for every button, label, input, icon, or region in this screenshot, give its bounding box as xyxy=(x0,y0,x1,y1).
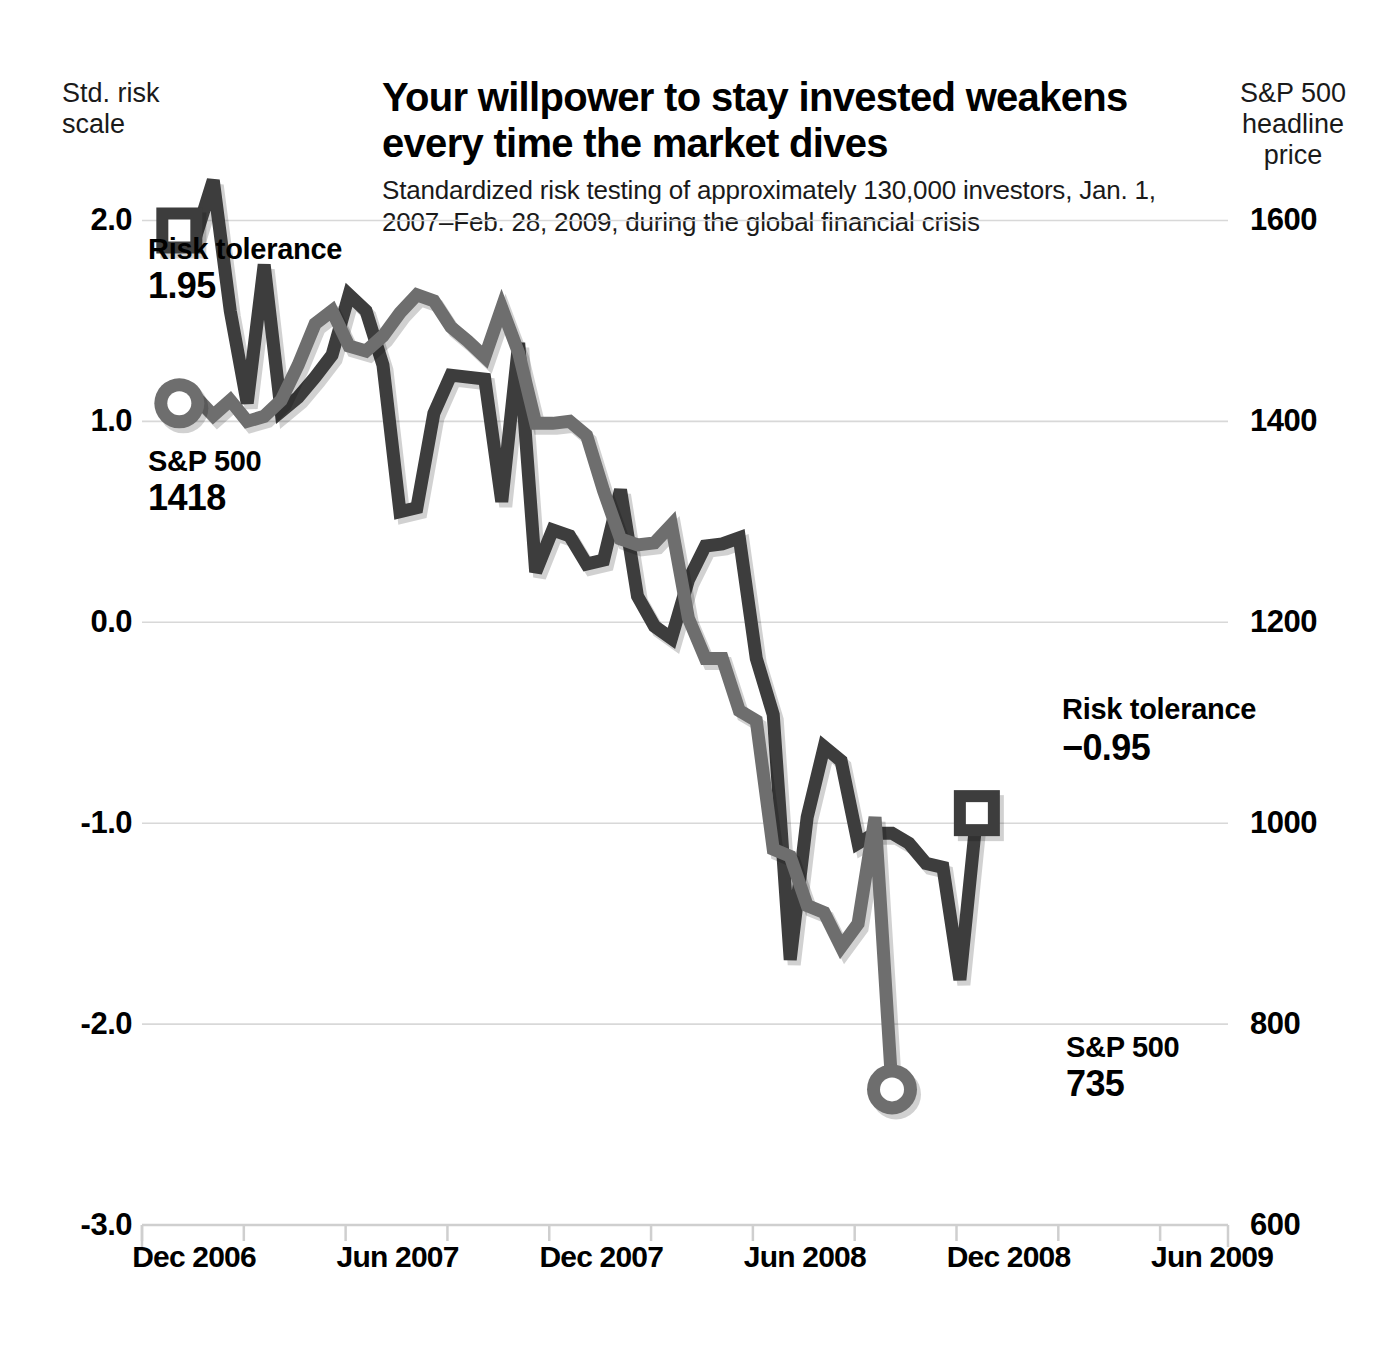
annotation-sp-start: S&P 500 1418 xyxy=(148,444,398,518)
y-tick-right-label: 1400 xyxy=(1250,403,1380,439)
annotation-risk-start: Risk tolerance 1.95 xyxy=(148,232,398,306)
marker-sp-end-hole xyxy=(880,1077,904,1101)
x-tick-label: Dec 2006 xyxy=(94,1240,294,1274)
annotation-risk-end-label: Risk tolerance xyxy=(1062,692,1282,726)
y-tick-left-label: 1.0 xyxy=(44,403,132,439)
annotation-risk-end: Risk tolerance −0.95 xyxy=(1062,692,1282,768)
x-tick-label: Dec 2008 xyxy=(909,1240,1109,1274)
y-tick-left-label: 2.0 xyxy=(44,202,132,238)
plot-area xyxy=(0,0,1388,1345)
y-tick-right-label: 600 xyxy=(1250,1207,1380,1243)
y-tick-left-label: -1.0 xyxy=(44,805,132,841)
annotation-sp-end-label: S&P 500 xyxy=(1066,1030,1286,1064)
y-tick-right-label: 1000 xyxy=(1250,805,1380,841)
annotation-sp-end: S&P 500 735 xyxy=(1066,1030,1286,1104)
marker-risk-end-hole xyxy=(966,802,988,824)
annotation-sp-start-value: 1418 xyxy=(148,478,398,518)
chart-container: Std. risk scale S&P 500 headline price Y… xyxy=(0,0,1388,1345)
annotation-risk-end-value: −0.95 xyxy=(1062,728,1282,768)
series-lines xyxy=(179,180,981,1094)
annotation-risk-start-label: Risk tolerance xyxy=(148,232,398,266)
x-tick-label: Jun 2009 xyxy=(1112,1240,1312,1274)
y-tick-left-label: 0.0 xyxy=(44,604,132,640)
y-tick-right-label: 1600 xyxy=(1250,202,1380,238)
annotation-sp-start-label: S&P 500 xyxy=(148,444,398,478)
annotation-sp-end-value: 735 xyxy=(1066,1064,1286,1104)
y-tick-left-label: -2.0 xyxy=(44,1006,132,1042)
marker-sp-start-hole xyxy=(167,391,191,415)
annotation-risk-start-value: 1.95 xyxy=(148,266,398,306)
x-tick-label: Dec 2007 xyxy=(501,1240,701,1274)
y-tick-right-label: 1200 xyxy=(1250,604,1380,640)
x-tick-label: Jun 2007 xyxy=(298,1240,498,1274)
y-tick-left-label: -3.0 xyxy=(44,1207,132,1243)
x-tick-label: Jun 2008 xyxy=(705,1240,905,1274)
